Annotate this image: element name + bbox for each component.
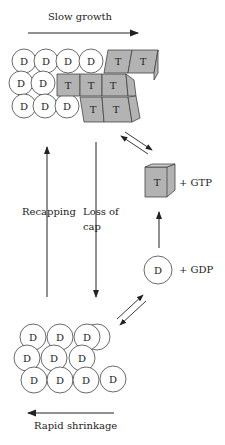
svg-text:T: T [90, 104, 97, 115]
svg-text:D: D [83, 332, 91, 343]
growing-microtubule [9, 49, 158, 122]
svg-text:D: D [23, 353, 31, 364]
svg-text:D: D [64, 56, 72, 67]
svg-text:D: D [82, 375, 90, 386]
svg-text:D: D [20, 101, 28, 112]
svg-text:D: D [56, 375, 64, 386]
svg-text:D: D [50, 353, 58, 364]
gtp-label: + GTP [179, 177, 212, 188]
svg-text:T: T [88, 80, 95, 91]
svg-text:T: T [113, 104, 120, 115]
rapid-shrinkage-label: Rapid shrinkage [34, 420, 117, 431]
svg-text:D: D [87, 56, 95, 67]
svg-text:D: D [29, 332, 37, 343]
svg-text:D: D [63, 101, 71, 112]
svg-text:D: D [109, 374, 117, 385]
loss-of-cap-label-2: cap [83, 221, 101, 232]
loss-of-cap-label-1: Loss of [83, 206, 119, 217]
svg-text:D: D [41, 101, 49, 112]
svg-text:D: D [42, 56, 50, 67]
svg-text:D: D [154, 265, 162, 276]
svg-text:D: D [39, 78, 47, 89]
svg-text:T: T [65, 80, 72, 91]
recapping-label: Recapping [22, 206, 76, 217]
d-label: D [20, 56, 28, 67]
svg-text:D: D [17, 78, 25, 89]
svg-text:D: D [78, 353, 86, 364]
svg-text:D: D [30, 375, 38, 386]
svg-text:T: T [115, 56, 122, 67]
gdp-label: + GDP [179, 264, 213, 275]
svg-text:T: T [154, 177, 161, 188]
svg-text:T: T [140, 56, 147, 67]
svg-text:D: D [56, 332, 64, 343]
slow-growth-label: Slow growth [48, 11, 112, 22]
microtubule-dynamics-diagram: DDDD DD DDD TT TTT TT T D DDD DDD DDDD [0, 0, 225, 445]
svg-text:T: T [110, 80, 117, 91]
